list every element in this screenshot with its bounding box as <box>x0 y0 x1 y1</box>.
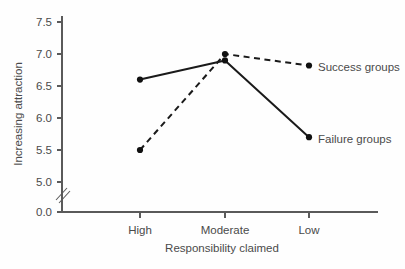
x-tick-label-high: High <box>128 224 152 236</box>
data-point <box>137 147 143 153</box>
x-tick-label-low: Low <box>298 224 320 236</box>
data-point <box>137 77 143 83</box>
axis-break-icon <box>56 188 70 203</box>
y-tick-label-5-0: 5.0 <box>36 176 52 188</box>
series-line-failure <box>140 60 309 137</box>
series-markers-success <box>137 51 312 153</box>
y-tick-marks <box>57 22 62 212</box>
series-line-success <box>140 54 309 150</box>
series-markers-failure <box>137 57 312 140</box>
x-tick-marks <box>140 212 309 218</box>
y-tick-label-6-5: 6.5 <box>36 80 52 92</box>
data-point <box>306 62 312 68</box>
y-tick-label-7-5: 7.5 <box>36 16 52 28</box>
y-tick-label-5-5: 5.5 <box>36 144 52 156</box>
y-tick-label-7-0: 7.0 <box>36 48 52 60</box>
y-tick-label-6-0: 6.0 <box>36 112 52 124</box>
series-label-failure: Failure groups <box>318 133 392 145</box>
chart-figure: 7.5 7.0 6.5 6.0 5.5 5.0 0.0 High Moderat… <box>0 0 405 269</box>
x-axis-title: Responsibility claimed <box>165 242 279 254</box>
series-label-success: Success groups <box>318 61 400 73</box>
data-point <box>222 57 228 63</box>
data-point <box>306 134 312 140</box>
x-tick-label-moderate: Moderate <box>201 224 250 236</box>
y-axis-title: Increasing attraction <box>12 62 24 166</box>
data-point <box>222 51 228 57</box>
line-chart: 7.5 7.0 6.5 6.0 5.5 5.0 0.0 High Moderat… <box>0 0 405 269</box>
y-tick-label-0-0: 0.0 <box>36 206 52 218</box>
